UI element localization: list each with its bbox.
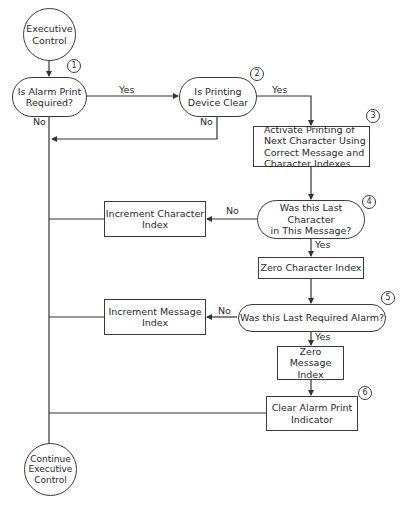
edge-label-alarm-no: No [33,116,46,127]
decision-last-required-alarm: Was this Last Required Alarm? [238,304,386,332]
edge-label-alarm-last-yes: Yes [315,331,330,342]
process-zero-message-index: Zero Message Index [277,346,344,380]
step-number-4: 4 [362,195,376,209]
end-terminal: Continue Executive Control [24,443,77,496]
decision-last-character: Was this Last Character in This Message? [257,200,365,239]
decision-printing-device-clear-label: Is Printing Device Clear [188,86,248,109]
process-activate-printing: Activate Printing of Next Character Usin… [253,126,370,167]
edge-label-alarm-yes: Yes [119,84,134,95]
step-number-1: 1 [67,59,81,73]
process-zero-character-index-label: Zero Character Index [261,262,362,274]
step-number-2: 2 [250,67,264,81]
process-clear-alarm-print-indicator: Clear Alarm Print Indicator [266,396,358,431]
step-number-6: 6 [358,386,372,400]
process-increment-character-index: Increment Character Index [104,201,206,237]
process-zero-character-index: Zero Character Index [258,257,364,279]
edge-label-char-no: No [226,205,239,216]
start-terminal: Executive Control [23,8,76,61]
step-number-5: 5 [381,291,395,305]
decision-alarm-print-required-label: Is Alarm Print Required? [18,86,82,109]
process-increment-character-index-label: Increment Character Index [106,208,204,231]
process-activate-printing-label: Activate Printing of Next Character Usin… [264,124,366,170]
decision-last-character-label: Was this Last Character in This Message? [258,202,364,237]
edge-label-device-no: No [200,116,213,127]
step-number-3: 3 [366,109,380,123]
process-increment-message-index-label: Increment Message Index [108,306,201,329]
decision-last-required-alarm-label: Was this Last Required Alarm? [240,312,384,324]
flowchart-canvas: Executive Control Is Alarm Print Require… [0,0,407,510]
process-clear-alarm-print-indicator-label: Clear Alarm Print Indicator [272,402,353,425]
edge-label-char-yes: Yes [315,239,330,250]
edge-label-device-yes: Yes [272,84,287,95]
process-increment-message-index: Increment Message Index [104,299,206,335]
decision-alarm-print-required: Is Alarm Print Required? [12,77,87,117]
decision-printing-device-clear: Is Printing Device Clear [179,77,257,117]
edge-label-alarm-last-no: No [218,305,231,316]
process-zero-message-index-label: Zero Message Index [278,346,343,381]
start-terminal-label: Executive Control [26,23,72,46]
end-terminal-label: Continue Executive Control [29,454,73,486]
